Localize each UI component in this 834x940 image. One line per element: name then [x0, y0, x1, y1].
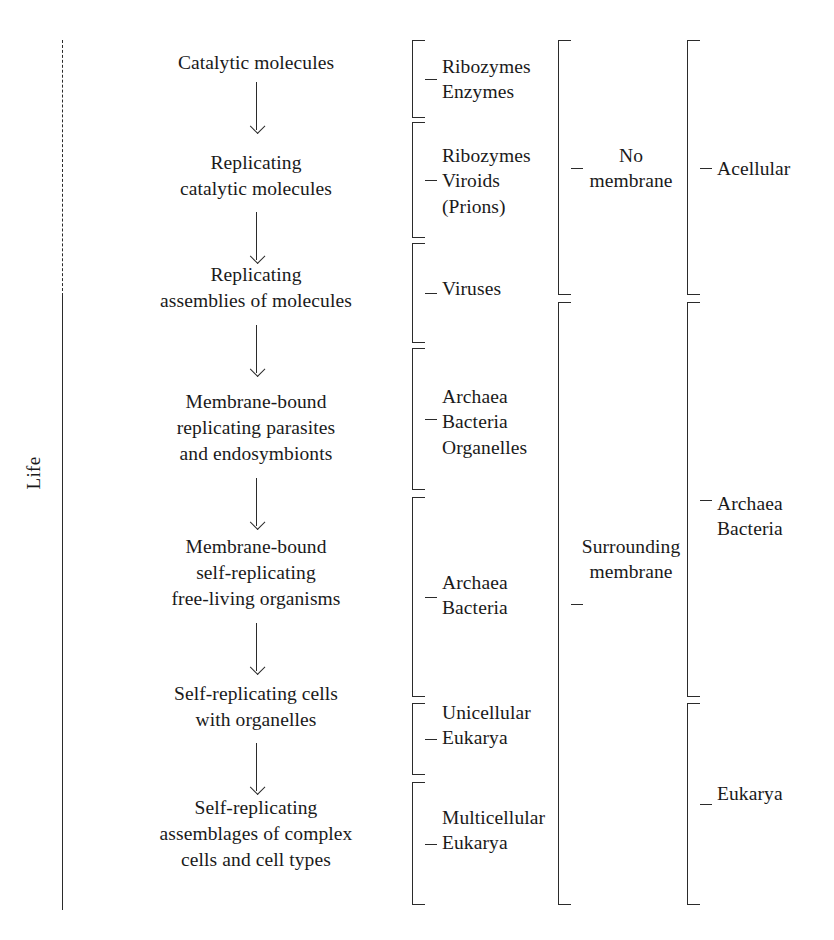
bracket-tick-organism-types-5: [425, 597, 437, 598]
bracket-label-organism-types-1: Ribozymes Enzymes: [442, 54, 531, 105]
flow-stage-1: Catalytic molecules: [110, 50, 402, 76]
bracket-tick-organism-types-7: [425, 844, 437, 845]
bracket-tick-cellularity-3: [700, 804, 712, 805]
bracket-tick-organism-types-2: [425, 180, 437, 181]
bracket-label-organism-types-2: Ribozymes Viroids (Prions): [442, 143, 531, 219]
flow-stage-6: Self-replicating cells with organelles: [110, 681, 402, 733]
bracket-organism-types-5: [412, 497, 425, 697]
life-axis-label: Life: [23, 433, 45, 513]
life-axis-dashed-segment: [62, 40, 63, 296]
bracket-label-organism-types-7: Multicellular Eukarya: [442, 805, 545, 856]
bracket-label-cellularity-2: Archaea Bacteria: [717, 491, 783, 542]
bracket-label-membrane-status-1: No membrane: [576, 143, 686, 194]
flow-arrow-5: [256, 623, 257, 671]
life-axis: Life: [0, 0, 110, 940]
bracket-label-organism-types-4: Archaea Bacteria Organelles: [442, 384, 527, 460]
flow-arrow-4: [256, 478, 257, 526]
bracket-organism-types-4: [412, 348, 425, 490]
bracket-tick-organism-types-1: [425, 79, 437, 80]
bracket-column-membrane-status: No membraneSurrounding membrane: [554, 0, 686, 940]
flow-stage-4: Membrane-bound replicating parasites and…: [110, 389, 402, 467]
bracket-tick-organism-types-4: [425, 419, 437, 420]
bracket-organism-types-3: [412, 243, 425, 343]
bracket-tick-organism-types-6: [425, 739, 437, 740]
life-axis-solid-segment: [62, 296, 63, 910]
bracket-organism-types-1: [412, 40, 425, 118]
flow-stage-2: Replicating catalytic molecules: [110, 150, 402, 202]
bracket-cellularity-2: [687, 302, 700, 697]
flow-arrow-1: [256, 82, 257, 130]
flow-arrow-3: [256, 325, 257, 373]
bracket-organism-types-6: [412, 703, 425, 775]
bracket-cellularity-3: [687, 703, 700, 905]
bracket-tick-organism-types-3: [425, 293, 437, 294]
bracket-organism-types-7: [412, 782, 425, 905]
diagram-canvas: Life Catalytic moleculesReplicating cata…: [0, 0, 834, 940]
bracket-tick-cellularity-2: [700, 500, 712, 501]
bracket-membrane-status-1: [558, 40, 571, 295]
bracket-label-cellularity-3: Eukarya: [717, 781, 783, 806]
flow-arrow-6: [256, 743, 257, 791]
bracket-label-organism-types-5: Archaea Bacteria: [442, 570, 508, 621]
bracket-column-cellularity: AcellularArchaea BacteriaEukarya: [683, 0, 834, 940]
flow-stage-5: Membrane-bound self-replicating free-liv…: [110, 534, 402, 612]
bracket-tick-cellularity-1: [700, 168, 712, 169]
bracket-label-cellularity-1: Acellular: [717, 156, 790, 181]
bracket-cellularity-1: [687, 40, 700, 295]
bracket-label-membrane-status-2: Surrounding membrane: [576, 534, 686, 585]
bracket-label-organism-types-3: Viruses: [442, 276, 501, 301]
bracket-column-organism-types: Ribozymes EnzymesRibozymes Viroids (Prio…: [408, 0, 558, 940]
flow-stage-7: Self-replicating assemblages of complex …: [110, 795, 402, 873]
flow-arrow-2: [256, 212, 257, 260]
bracket-organism-types-2: [412, 122, 425, 238]
bracket-membrane-status-2: [558, 302, 571, 905]
bracket-label-organism-types-6: Unicellular Eukarya: [442, 700, 531, 751]
flow-stage-3: Replicating assemblies of molecules: [110, 262, 402, 314]
bracket-tick-membrane-status-2: [571, 604, 583, 605]
flow-stage-column: Catalytic moleculesReplicating catalytic…: [110, 0, 402, 940]
